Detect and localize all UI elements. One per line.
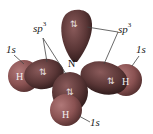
electron-pair-bottom: ⇅ — [66, 88, 71, 97]
orbital-label-bottom: 1s — [90, 117, 100, 128]
electron-pair-top: ⇅ — [70, 20, 75, 29]
electron-pair-right: ⇅ — [107, 77, 112, 86]
nitrogen-label: N — [68, 59, 75, 69]
orbital-label-right: 1s — [136, 44, 146, 55]
orbital-label-left: 1s — [6, 44, 16, 55]
hybrid-label-right: sp3 — [118, 23, 131, 35]
h-label-right: H — [122, 77, 129, 87]
hybrid-label-left: sp3 — [33, 22, 46, 34]
h-label-bottom: H — [62, 110, 69, 120]
sp3-lobe-top — [61, 10, 92, 62]
h-label-left: H — [16, 72, 23, 82]
nh3-orbital-diagram: sp3 sp3 1s 1s 1s N H H H ⇅ ⇅ ⇅ ⇅ — [0, 0, 153, 134]
electron-pair-left: ⇅ — [39, 68, 44, 77]
